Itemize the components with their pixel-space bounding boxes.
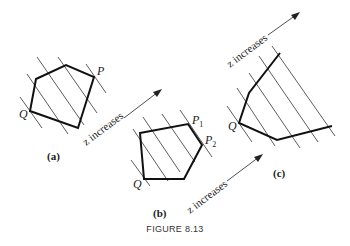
vertex-label-p: P	[96, 64, 105, 78]
figure-title: FIGURE 8.13	[0, 224, 350, 234]
panel-c-contour-lines	[227, 46, 335, 148]
panel-c-caption: (c)	[273, 167, 286, 180]
z-increases-label-b: z increases	[184, 177, 230, 215]
vertex-label-p2: P2	[204, 133, 216, 149]
diagram-canvas: P Q (a) z increases P1 P2 Q (b) z increa…	[0, 0, 350, 246]
panel-a-polygon	[30, 65, 94, 128]
vertex-label-p1: P1	[191, 113, 203, 129]
panel-a-caption: (a)	[47, 150, 60, 163]
panel-b-caption: (b)	[153, 207, 167, 220]
vertex-label-q: Q	[19, 107, 28, 121]
vertex-label-q: Q	[228, 119, 237, 133]
z-increases-arrow-b: z increases	[184, 154, 263, 216]
z-increases-arrow-a: z increases	[80, 89, 162, 148]
z-increases-label-c: z increases	[224, 31, 270, 69]
vertex-label-q: Q	[133, 177, 142, 191]
z-increases-label-a: z increases	[80, 109, 126, 147]
figure: P Q (a) z increases P1 P2 Q (b) z increa…	[0, 0, 350, 246]
panel-b-polygon	[140, 124, 202, 179]
